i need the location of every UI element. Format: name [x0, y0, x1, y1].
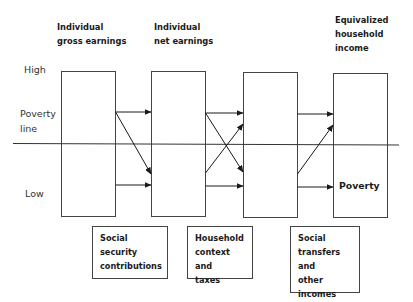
factor-box-household-context: Household context and taxes [187, 226, 253, 279]
stage-box-equivalized-income [334, 74, 388, 218]
stage-header-gross-earnings: Individual gross earnings [57, 20, 126, 48]
level-label-line: line [20, 121, 56, 136]
factor-line: other [298, 273, 352, 287]
level-label-poverty-line: Poverty line [20, 106, 56, 136]
stage-header-net-earnings: Individual net earnings [154, 20, 213, 48]
factor-line: taxes [195, 273, 245, 287]
factor-box-social-security: Social security contributions [92, 226, 168, 279]
stage-header-line: household [335, 27, 388, 41]
level-label-high: High [24, 62, 46, 77]
stage-header-line: Equivalized [335, 13, 388, 27]
factor-line: contributions [100, 259, 160, 273]
arrow-low-to-high-2 [206, 124, 244, 173]
arrow-low-to-high-3 [298, 125, 334, 174]
factor-line: context and [195, 245, 245, 273]
stage-header-line: gross earnings [57, 34, 126, 48]
outcome-label-poverty: Poverty [339, 180, 380, 191]
factor-box-social-transfers: Social transfers and other incomes [290, 226, 360, 293]
stage-header-equivalized-income: Equivalized household income [335, 13, 388, 55]
level-label-low: Low [25, 186, 44, 201]
level-label-line: Poverty [20, 106, 56, 121]
factor-line: transfers and [298, 245, 352, 273]
factor-line: incomes [298, 287, 352, 301]
factor-line: Household [195, 231, 245, 245]
stage-header-line: net earnings [154, 34, 213, 48]
factor-line: Social [298, 231, 352, 245]
arrow-high-to-low-2 [206, 113, 244, 172]
stage-header-line: Individual [154, 20, 213, 34]
factor-line: Social security [100, 231, 160, 259]
arrow-high-to-low-1 [116, 112, 152, 174]
stage-header-line: Individual [57, 20, 126, 34]
stage-header-line: income [335, 41, 388, 55]
